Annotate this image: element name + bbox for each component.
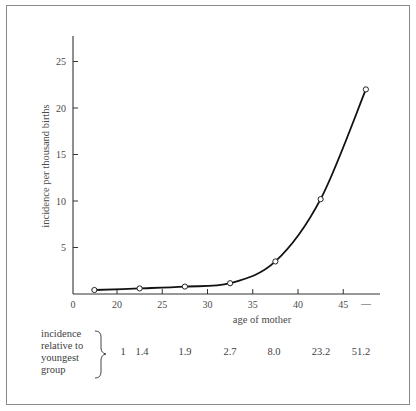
y-tick-label: 15 (56, 149, 66, 160)
x-tick-label: 20 (112, 299, 122, 310)
relative-value: 1.9 (178, 346, 191, 357)
x-tick-label: 0 (71, 299, 76, 310)
data-curve (94, 89, 366, 290)
y-tick-label: 20 (56, 103, 66, 114)
relative-value: 51.2 (352, 346, 370, 357)
y-tick-label: 10 (56, 196, 66, 207)
data-point-marker (273, 259, 278, 264)
x-tick-label: 35 (248, 299, 258, 310)
data-point-marker (92, 287, 97, 292)
y-axis-label: incidence per thousand births (40, 104, 51, 227)
y-tick-label: 25 (56, 56, 66, 67)
x-tick-label: — (360, 298, 372, 309)
x-axis-label: age of mother (233, 314, 292, 325)
y-tick-label: 5 (61, 242, 66, 253)
relative-value: 23.2 (312, 346, 330, 357)
relative-value: 1 (120, 346, 125, 357)
relative-value: 8.0 (267, 346, 280, 357)
relative-label-line: relative to (41, 340, 83, 351)
relative-label-line: incidence (41, 328, 82, 339)
chart-svg: 510152025 0202530354045— incidence per t… (0, 0, 416, 411)
x-tick-label: 40 (293, 299, 303, 310)
data-point-marker (182, 284, 187, 289)
relative-incidence-label: incidencerelative toyoungestgroup (41, 328, 83, 375)
relative-label-line: youngest (41, 352, 79, 363)
data-point-marker (363, 87, 368, 92)
data-point-marker (228, 281, 233, 286)
relative-label-line: group (41, 364, 66, 375)
x-ticks: 0202530354045— (71, 289, 373, 310)
data-point-marker (137, 286, 142, 291)
relative-incidence-values: 11.41.92.78.023.251.2 (120, 346, 370, 357)
relative-value: 2.7 (223, 346, 236, 357)
y-ticks: 510152025 (56, 56, 78, 253)
x-tick-label: 30 (203, 299, 213, 310)
brace-icon (95, 331, 106, 378)
x-tick-label: 45 (338, 299, 348, 310)
data-point-marker (318, 197, 323, 202)
x-tick-label: 25 (157, 299, 167, 310)
relative-value: 1.4 (135, 346, 149, 357)
data-points (92, 87, 369, 293)
